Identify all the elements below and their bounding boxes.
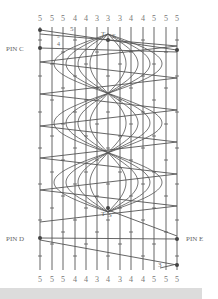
bottom-count-label: 3 bbox=[95, 275, 99, 284]
diagonal-threads bbox=[40, 30, 177, 268]
top-count-label: 3 bbox=[106, 14, 110, 23]
diagonal-thread bbox=[40, 78, 177, 94]
diagonal-thread bbox=[40, 190, 177, 206]
annotation-4: 4 bbox=[57, 41, 60, 47]
pin-dot bbox=[175, 263, 179, 267]
bottom-count-label: 5 bbox=[152, 275, 156, 284]
pin-dot bbox=[38, 236, 42, 240]
bottom-count-label: 5 bbox=[38, 275, 42, 284]
pin-dot bbox=[175, 48, 179, 52]
pin-dot bbox=[106, 206, 110, 210]
top-count-label: 5 bbox=[61, 14, 65, 23]
bottom-count-label: 4 bbox=[106, 275, 110, 284]
bottom-count-label: 5 bbox=[164, 275, 168, 284]
pin-d-label: PIN D bbox=[6, 235, 24, 243]
bottom-count-label: 5 bbox=[175, 275, 179, 284]
diagonal-thread bbox=[40, 126, 177, 142]
bottom-count-label: 5 bbox=[61, 275, 65, 284]
bottom-count-label: 4 bbox=[141, 275, 145, 284]
pin-e-label: PIN E bbox=[186, 235, 203, 243]
top-count-label: 5 bbox=[175, 14, 179, 23]
pin-dot bbox=[38, 46, 42, 50]
annotation-s-top: S bbox=[112, 32, 116, 40]
bottom-thread-counts: 5554434344555 bbox=[38, 275, 179, 284]
lace-working-diagram: 5554433344555 5554434344555 PIN C PIN D … bbox=[0, 0, 218, 299]
top-count-label: 4 bbox=[84, 14, 88, 23]
top-count-label: 5 bbox=[152, 14, 156, 23]
vertical-threads bbox=[40, 27, 177, 270]
top-count-label: 5 bbox=[38, 14, 42, 23]
diagonal-thread bbox=[40, 158, 177, 174]
pin-dot bbox=[175, 237, 179, 241]
annotation-5: 5 bbox=[70, 25, 74, 33]
diagonal-thread bbox=[40, 238, 177, 239]
top-count-label: 5 bbox=[164, 14, 168, 23]
top-count-label: 3 bbox=[118, 14, 122, 23]
diagonal-thread bbox=[40, 240, 177, 265]
top-count-label: 4 bbox=[73, 14, 77, 23]
bottom-count-label: 3 bbox=[118, 275, 122, 284]
diagonal-thread bbox=[40, 94, 177, 110]
bottom-count-label: 4 bbox=[84, 275, 88, 284]
diagonal-thread bbox=[40, 174, 177, 190]
diagonal-thread bbox=[40, 142, 177, 158]
top-count-label: 3 bbox=[95, 14, 99, 23]
bottom-count-label: 5 bbox=[50, 275, 54, 284]
footer-bar bbox=[0, 288, 202, 299]
bottom-count-label: 4 bbox=[129, 275, 133, 284]
annotation-s-bottom: S bbox=[108, 211, 112, 219]
annotation-3: 3 bbox=[158, 261, 162, 269]
annotation-small-5: 5 bbox=[57, 34, 60, 39]
top-count-label: 4 bbox=[129, 14, 133, 23]
pin-dot bbox=[38, 28, 42, 32]
top-count-label: 4 bbox=[141, 14, 145, 23]
top-thread-counts: 5554433344555 bbox=[38, 14, 179, 23]
pin-c-label: PIN C bbox=[6, 45, 24, 53]
annotation-t-top: T bbox=[101, 30, 106, 38]
diagonal-thread bbox=[160, 264, 177, 268]
annotation-t-bottom: T bbox=[101, 210, 106, 218]
top-count-label: 5 bbox=[50, 14, 54, 23]
bottom-count-label: 4 bbox=[73, 275, 77, 284]
